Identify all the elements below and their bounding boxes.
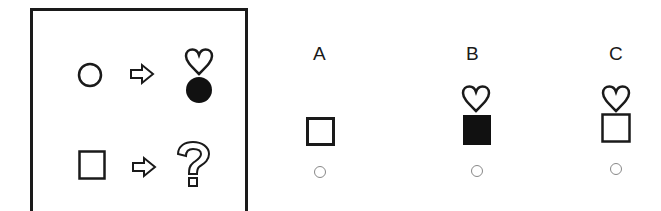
option-c-label: C	[609, 43, 623, 65]
square-outline-icon	[601, 113, 631, 143]
option-b-radio[interactable]	[470, 164, 484, 178]
option-a-label: A	[313, 43, 326, 65]
option-c-radio[interactable]	[609, 162, 623, 176]
heart-outline-icon	[461, 85, 491, 113]
heart-outline-icon	[601, 85, 631, 113]
square-filled-icon	[463, 115, 491, 145]
puzzle-frame	[30, 8, 248, 211]
heart-outline-icon	[184, 48, 214, 76]
right-arrow-icon	[131, 157, 157, 177]
circle-filled-icon	[186, 77, 214, 105]
option-b-label: B	[466, 43, 479, 65]
circle-outline-icon	[77, 62, 103, 88]
square-outline-icon	[78, 150, 106, 180]
right-arrow-icon	[129, 64, 155, 84]
option-a-radio[interactable]	[313, 165, 327, 179]
question-mark-icon	[175, 140, 213, 190]
square-outline-icon	[306, 117, 336, 147]
